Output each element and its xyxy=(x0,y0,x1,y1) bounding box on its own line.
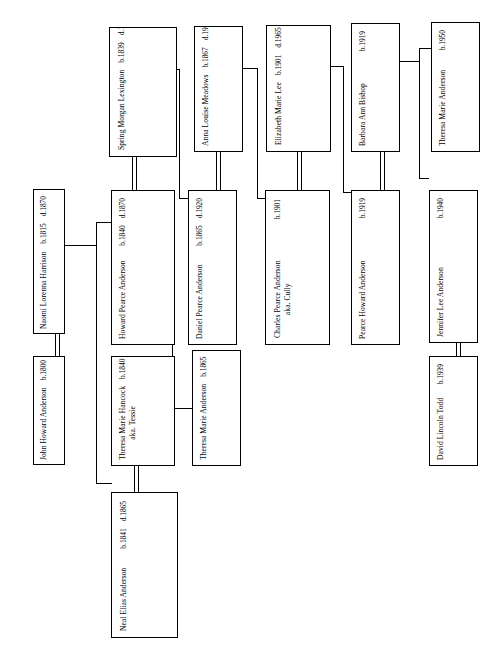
person-birth: b.1865 xyxy=(195,225,204,245)
person-death: d.1870 xyxy=(118,198,127,218)
descent-line-gen4-bus xyxy=(343,66,344,193)
marriage-line-charles-elizabeth-b xyxy=(301,152,302,190)
person-birth: b.1841 xyxy=(119,528,128,548)
person-birth: b.1800 xyxy=(39,360,48,380)
person-box-barbara-ann-bishop[interactable]: Barbara Ann Bishop b.1919 xyxy=(351,23,400,152)
person-box-theresa-marie-anderson-1865[interactable]: Theresa Marie Anderson b.1865 d.1865 xyxy=(192,350,241,466)
descent-line-to-charles xyxy=(257,198,265,199)
marriage-line-john-naomi-b xyxy=(59,334,60,356)
marriage-line-pearce-barbara-b xyxy=(384,152,385,190)
person-name: Spring Morgan Lexington xyxy=(117,70,127,150)
person-birth: b.1950 xyxy=(438,30,447,50)
person-box-naomi-lorenna-harrison[interactable]: Naomi Lorenna Harrison b.1815 d.1870 xyxy=(33,189,65,334)
marriage-line-howard-spring-a xyxy=(132,157,133,190)
person-alias: aka. Tessie xyxy=(128,386,138,460)
person-box-howard-pearce-anderson[interactable]: Howard Pearce Anderson b.1840 d.1870 xyxy=(111,190,175,345)
person-birth: b.1815 xyxy=(39,223,48,243)
descent-line-to-neal xyxy=(96,483,112,484)
person-name: Pearce Howard Anderson xyxy=(358,260,368,339)
descent-line-to-daniel xyxy=(179,198,188,199)
person-birth: b.1867 xyxy=(201,47,210,67)
person-box-david-lincoln-todd[interactable]: David Lincoln Todd b.1939 xyxy=(429,356,478,466)
person-box-anna-louise-meadows[interactable]: Anna Louise Meadows b.1867 d.1958 xyxy=(194,26,243,152)
person-birth: b.1940 xyxy=(436,198,445,218)
marriage-line-john-naomi-a xyxy=(55,334,56,356)
person-birth: b.1865 xyxy=(199,357,208,377)
descent-line-to-jennifer xyxy=(419,178,429,179)
person-name: David Lincoln Todd xyxy=(436,398,446,460)
person-birth: b.1840 xyxy=(118,359,127,379)
person-name: Charles Pearce Anderson xyxy=(273,261,283,338)
family-tree-chart: John Howard Anderson b.1800 d.1870 Naomi… xyxy=(0,0,483,651)
marriage-line-charles-elizabeth-a xyxy=(297,152,298,190)
descent-line-to-theresa1865 xyxy=(172,408,192,409)
marriage-line-pearce-barbara-a xyxy=(380,152,381,190)
person-box-elizabeth-marie-lee[interactable]: Elizabeth Marie Lee b.1901 d.1965 xyxy=(266,25,331,152)
person-birth: b.1839 xyxy=(117,42,126,62)
person-birth: b.1919 xyxy=(358,198,367,218)
descent-line-gen1-bus xyxy=(96,222,97,484)
person-death: d.1958 xyxy=(201,26,210,40)
person-birth: b.1901 xyxy=(274,55,283,75)
person-box-spring-morgan-lexington[interactable]: Spring Morgan Lexington b.1839 d.1901 xyxy=(109,27,177,157)
person-name: Theresa Marie Anderson xyxy=(438,70,448,146)
marriage-line-daniel-anna-b xyxy=(220,152,221,190)
person-name: Howard Pearce Anderson xyxy=(118,260,128,339)
person-name: John Howard Anderson xyxy=(39,387,49,460)
person-box-jennifer-lee-anderson[interactable]: Jennifer Lee Anderson b.1940 xyxy=(429,190,478,343)
person-death: d.1865 xyxy=(119,501,128,521)
person-name: Theresa Marie Anderson xyxy=(199,384,209,460)
person-box-neal-elias-anderson[interactable]: Neal Elias Anderson b.1841 d.1865 xyxy=(111,492,178,638)
person-box-pearce-howard-anderson[interactable]: Pearce Howard Anderson b.1919 xyxy=(351,190,400,345)
descent-line-to-pearce-howard xyxy=(343,192,351,193)
person-name: Naomi Lorenna Harrison xyxy=(39,252,49,329)
descent-line-to-theresa1950 xyxy=(419,48,431,49)
person-death: d.1870 xyxy=(39,196,48,216)
marriage-line-neal-tessie-b xyxy=(138,466,139,492)
person-name: Elizabeth Marie Lee xyxy=(274,82,284,145)
descent-line-gen3-bus xyxy=(257,68,258,199)
marriage-line-daniel-anna-a xyxy=(216,152,217,190)
person-name: Theresa Marie Hancock xyxy=(118,386,128,460)
marriage-line-howard-spring-b xyxy=(136,157,137,190)
person-death: d.1965 xyxy=(274,27,283,47)
person-name: Neal Elias Anderson xyxy=(119,568,129,631)
person-box-john-howard-anderson[interactable]: John Howard Anderson b.1800 d.1870 xyxy=(33,356,65,465)
person-box-daniel-pearce-anderson[interactable]: Daniel Pearce Anderson b.1865 d.1920 xyxy=(188,190,237,345)
person-alias: aka. Cully xyxy=(283,261,293,338)
person-birth: b.1840 xyxy=(118,225,127,245)
person-name: Daniel Pearce Anderson xyxy=(195,265,205,339)
person-name: Jennifer Lee Anderson xyxy=(436,267,446,337)
person-box-charles-pearce-anderson[interactable]: Charles Pearce Anderson aka. Cully b.190… xyxy=(265,190,330,345)
person-name: Anna Louise Meadows xyxy=(201,75,211,146)
person-birth: b.1939 xyxy=(436,364,445,384)
person-death: d.1920 xyxy=(195,198,204,218)
descent-line-gen2-bus xyxy=(179,69,180,199)
person-box-theresa-marie-hancock[interactable]: Theresa Marie Hancock aka. Tessie b.1840… xyxy=(111,356,175,466)
descent-line-gen5-bus xyxy=(419,48,420,179)
person-birth: b.1901 xyxy=(273,199,282,219)
person-birth: b.1919 xyxy=(358,31,367,51)
marriage-line-neal-tessie-a xyxy=(134,466,135,492)
person-death: d.1901 xyxy=(117,27,126,35)
person-name: Barbara Ann Bishop xyxy=(358,83,368,146)
person-box-theresa-marie-anderson-1950[interactable]: Theresa Marie Anderson b.1950 xyxy=(431,22,480,152)
descent-line-to-howard xyxy=(96,222,111,223)
